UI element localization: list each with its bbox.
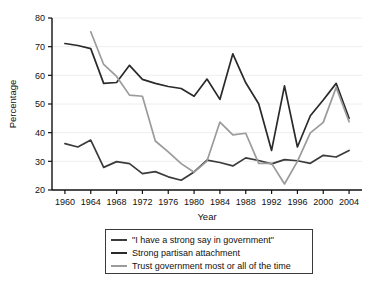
series-line-strong-partisan-attachment: [65, 44, 349, 151]
y-axis-title: Percentage: [7, 80, 18, 129]
y-axis-tick-label: 40: [35, 128, 45, 138]
y-axis-tick-label: 30: [35, 157, 45, 167]
x-axis-tick-label: 1980: [184, 197, 204, 207]
legend-swatch-trust: [111, 265, 127, 267]
chart-figure: 2030405060708019601964196819721976198019…: [0, 0, 384, 282]
x-axis-tick-label: 2000: [313, 197, 333, 207]
y-axis-tick-label: 60: [35, 71, 45, 81]
x-axis-tick-label: 1964: [81, 197, 101, 207]
legend-item-trust: Trust government most or all of the time: [111, 259, 312, 272]
x-axis-tick-label: 1992: [262, 197, 282, 207]
y-axis-tick-label: 50: [35, 99, 45, 109]
legend-swatch-partisan: [111, 252, 127, 254]
legend-swatch-strong-say: [111, 239, 127, 241]
x-axis-tick-label: 1968: [107, 197, 127, 207]
x-axis-title: Year: [197, 211, 216, 222]
x-axis-tick-label: 1972: [132, 197, 152, 207]
x-axis-tick-label: 1960: [55, 197, 75, 207]
x-axis-tick-label: 1988: [236, 197, 256, 207]
legend-label-partisan: Strong partisan attachment: [132, 248, 240, 258]
chart-legend: "I have a strong say in government" Stro…: [105, 229, 313, 274]
legend-item-partisan: Strong partisan attachment: [111, 246, 312, 259]
x-axis-tick-label: 1996: [287, 197, 307, 207]
x-axis-tick-label: 2004: [339, 197, 359, 207]
legend-item-strong-say: "I have a strong say in government": [111, 233, 312, 246]
legend-label-strong-say: "I have a strong say in government": [132, 235, 274, 245]
y-axis-tick-label: 80: [35, 13, 45, 23]
x-axis-tick-label: 1984: [210, 197, 230, 207]
x-axis-tick-label: 1976: [158, 197, 178, 207]
legend-label-trust: Trust government most or all of the time: [132, 261, 291, 271]
y-axis-tick-label: 70: [35, 42, 45, 52]
y-axis-tick-label: 20: [35, 185, 45, 195]
